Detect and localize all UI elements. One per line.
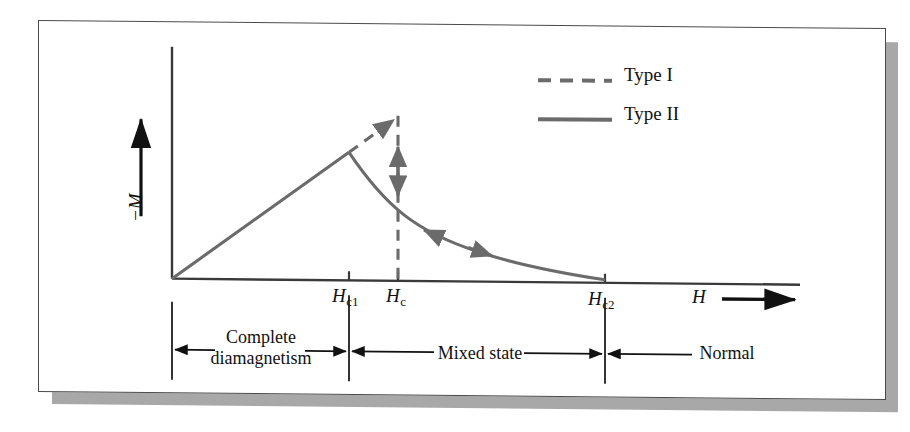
region-label-mixed-state: Mixed state [433,344,527,362]
region-label-complete-diamagnetism: Complete diamagnetism [200,327,322,368]
x-tick-label-hc2: Hc2 [588,289,615,311]
type-ii-direction-arrow-left [424,230,442,238]
legend-swatch-type-i [538,80,612,81]
x-axis [172,279,800,285]
region-label-line-1: Complete [200,327,322,348]
x-tick-label-hc1: Hc1 [332,286,359,308]
figure-page: −M Type I Type II Hc1 Hc Hc2 H Complete … [0,0,910,432]
tick-hc1-base: H [332,285,346,306]
region-label-line-2: diamagnetism [200,348,322,369]
tick-hc-base: H [386,285,400,306]
region-arrows-normal [608,354,692,355]
x-axis-label: H [692,287,706,306]
legend-label-type-ii: Type II [624,104,679,123]
legend-swatch-type-ii [538,119,612,120]
tick-hc2-base: H [588,288,602,309]
y-axis-label: −M [126,193,145,222]
type-i-rising-segment [349,119,394,152]
legend-label-type-i: Type I [624,65,673,84]
x-tick-label-hc: Hc [386,286,406,308]
region-label-normal: Normal [691,344,763,362]
tick-hc2-sub: c2 [602,297,614,312]
tick-hc-sub: c [400,294,406,309]
x-axis-direction-arrow [722,299,795,300]
type-ii-rising-segment [172,151,349,281]
tick-hc1-sub: c1 [346,294,358,309]
type-ii-direction-arrow-right [468,247,492,255]
type-ii-decay-segment [349,152,605,279]
